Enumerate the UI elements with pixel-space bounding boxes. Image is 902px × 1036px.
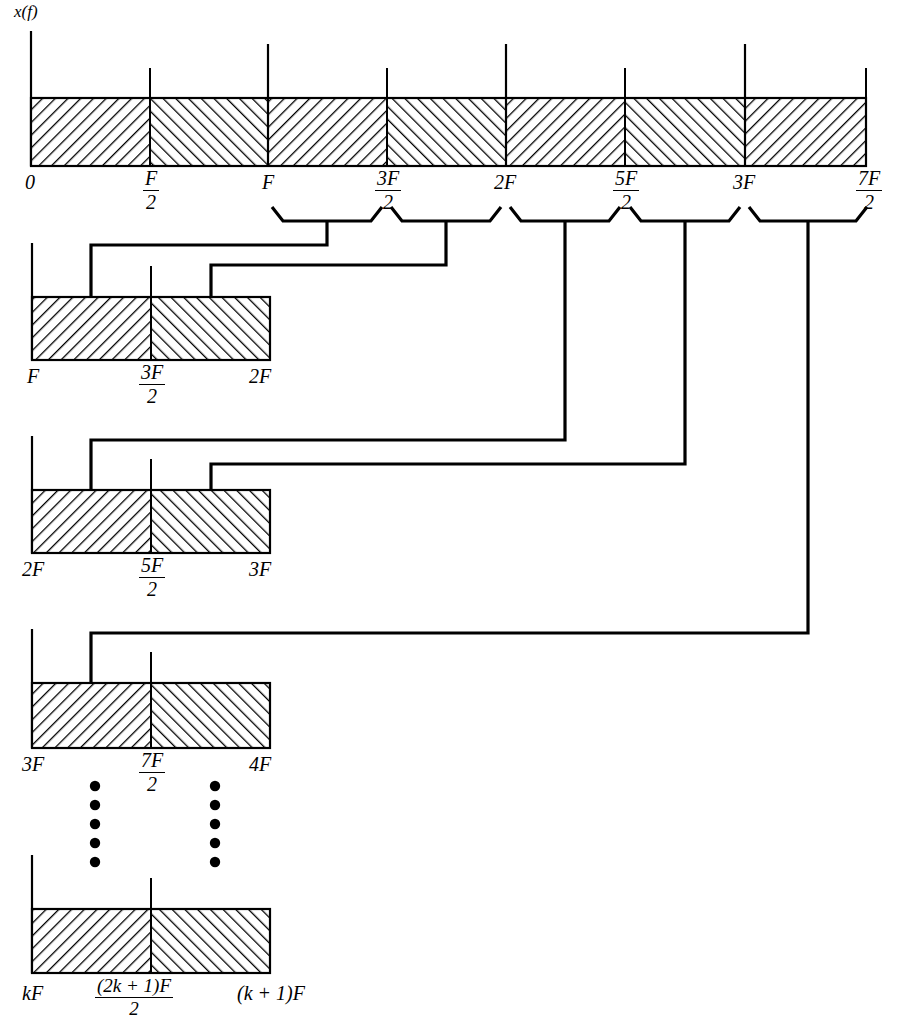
- connector-group: [91, 221, 808, 683]
- main-axis-label-F: F: [262, 172, 274, 192]
- sub-band-2-center-label: 5F 2: [139, 555, 165, 600]
- spectrum-band-diagram: x(f) 0 F 2 F 3F 2 2F 5F 2 3F 7F 2 F 3F 2…: [0, 0, 902, 1036]
- sub-band-2-right-label: 3F: [249, 559, 271, 579]
- sub-band-k-center-label: (2k + 1)F 2: [95, 976, 173, 1019]
- sub-band-1-group: [32, 243, 270, 360]
- sub-band-3-right-label: 4F: [249, 754, 271, 774]
- ellipsis-dot: [90, 857, 100, 867]
- main-axis-label-3half-F: 3F 2: [375, 168, 401, 213]
- fraction-denominator: 2: [95, 998, 173, 1019]
- sub-band-1-right-half: [151, 297, 270, 360]
- fraction-denominator: 2: [375, 191, 401, 213]
- sub-band-1-right-label: 2F: [249, 366, 271, 386]
- connector-brace1-to-band1: [91, 221, 327, 297]
- main-band-cell-2-5half: [506, 98, 625, 166]
- brace-3: [510, 207, 620, 221]
- fraction-numerator: 3F: [375, 168, 401, 191]
- main-band-group: [31, 31, 866, 166]
- sub-band-2-group: [32, 436, 270, 553]
- sub-band-k-right-half: [151, 909, 270, 973]
- diagram-canvas: [0, 0, 902, 1036]
- sub-band-2-right-half: [151, 490, 270, 553]
- brace-1: [272, 207, 382, 221]
- fraction-numerator: 5F: [613, 168, 639, 191]
- main-axis-label-half-F: F 2: [143, 168, 159, 213]
- fraction-denominator: 2: [856, 191, 882, 213]
- fraction-numerator: 5F: [139, 555, 165, 578]
- ellipsis-dot: [210, 800, 220, 810]
- sub-band-k-group: [32, 855, 270, 973]
- main-axis-label-5half-F: 5F 2: [613, 168, 639, 213]
- main-band-cell-3half-2: [387, 98, 506, 166]
- main-axis-label-0: 0: [25, 172, 35, 192]
- sub-band-3-center-label: 7F 2: [139, 750, 165, 795]
- main-axis-label-2F: 2F: [494, 172, 516, 192]
- fraction-numerator: F: [143, 168, 159, 191]
- fraction-numerator: 7F: [139, 750, 165, 773]
- sub-band-2-left-label: 2F: [22, 559, 44, 579]
- fraction-denominator: 2: [613, 191, 639, 213]
- main-band-cell-0-half: [31, 98, 150, 166]
- fraction-denominator: 2: [139, 385, 165, 407]
- ellipsis-dot: [90, 819, 100, 829]
- sub-band-k-left-half: [32, 909, 151, 973]
- main-axis-label-3F: 3F: [733, 172, 755, 192]
- connector-brace4-to-band2: [211, 221, 685, 490]
- fraction-numerator: (2k + 1)F: [95, 976, 173, 998]
- main-axis-label-7half-F: 7F 2: [856, 168, 882, 213]
- sub-band-k-left-label: kF: [22, 983, 43, 1003]
- fraction-numerator: 7F: [856, 168, 882, 191]
- ellipsis-dot: [210, 838, 220, 848]
- connector-brace5-to-band3: [91, 221, 808, 683]
- sub-band-3-right-half: [151, 683, 270, 748]
- sub-band-k-right-label: (k + 1)F: [237, 983, 305, 1003]
- sub-band-3-group: [32, 629, 270, 748]
- sub-band-1-left-label: F: [27, 366, 39, 386]
- ellipsis-dot: [90, 800, 100, 810]
- fraction-numerator: 3F: [139, 362, 165, 385]
- figure-title: x(f): [14, 3, 38, 20]
- sub-band-2-left-half: [32, 490, 151, 553]
- main-band-cell-half-1: [150, 98, 268, 166]
- ellipsis-dot: [90, 838, 100, 848]
- main-band-cell-5half-3: [625, 98, 745, 166]
- sub-band-1-center-label: 3F 2: [139, 362, 165, 407]
- ellipsis-dot: [210, 819, 220, 829]
- brace-2: [391, 207, 501, 221]
- sub-band-3-left-half: [32, 683, 151, 748]
- sub-band-3-left-label: 3F: [22, 754, 44, 774]
- brace-4: [630, 207, 740, 221]
- brace-5: [749, 207, 867, 221]
- main-band-cell-3-7half: [745, 98, 866, 166]
- brace-group: [272, 207, 867, 221]
- sub-band-1-left-half: [32, 297, 151, 360]
- fraction-denominator: 2: [139, 578, 165, 600]
- ellipsis-dot: [90, 781, 100, 791]
- main-band-cell-1-3half: [268, 98, 387, 166]
- ellipsis-dot: [210, 781, 220, 791]
- fraction-denominator: 2: [139, 773, 165, 795]
- fraction-denominator: 2: [143, 191, 159, 213]
- ellipsis-dot: [210, 857, 220, 867]
